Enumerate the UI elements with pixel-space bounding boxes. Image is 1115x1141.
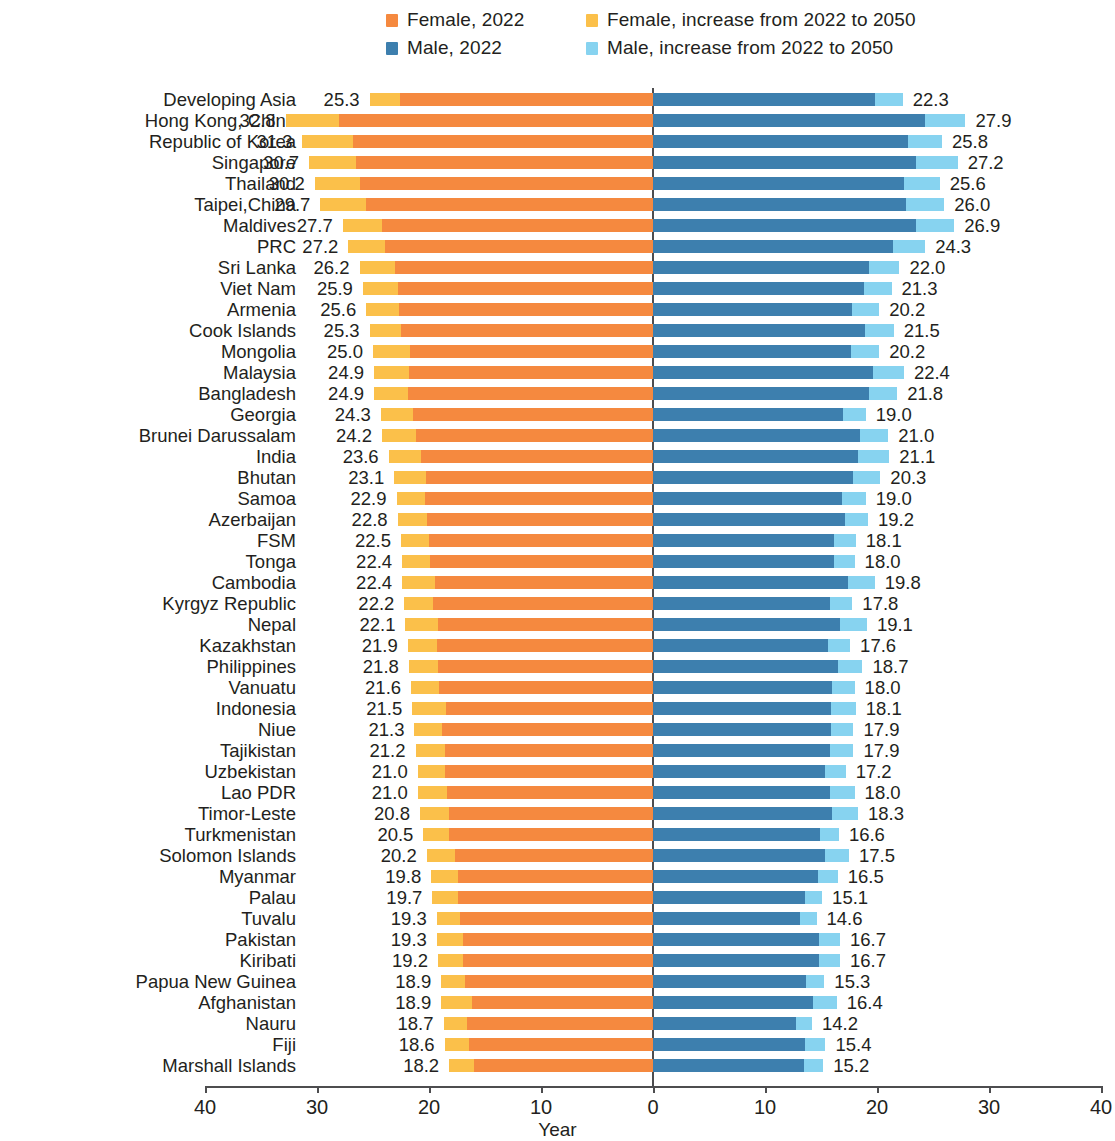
chart-row: Sri Lanka26.222.0	[0, 257, 1115, 278]
axis-tick	[765, 1086, 767, 1093]
female-2022-segment	[410, 345, 653, 358]
male-value-label: 22.0	[909, 257, 991, 278]
female-bar	[409, 660, 653, 673]
male-bar	[653, 450, 889, 463]
male-2022-segment	[653, 345, 851, 358]
female-bar	[320, 198, 653, 211]
female-2022-segment	[401, 324, 653, 337]
female-increase-segment	[381, 408, 413, 421]
male-2022-segment	[653, 450, 858, 463]
chart-row: Lao PDR21.018.0	[0, 782, 1115, 803]
female-increase-segment	[401, 534, 429, 547]
male-increase-segment	[869, 261, 899, 274]
male-increase-segment	[853, 471, 880, 484]
female-increase-segment	[411, 681, 439, 694]
female-2022-segment	[465, 975, 653, 988]
legend-label-female-increase: Female, increase from 2022 to 2050	[607, 9, 916, 31]
male-bar	[653, 219, 954, 232]
female-value-label: 24.3	[289, 404, 371, 425]
female-bar	[309, 156, 653, 169]
female-increase-segment	[431, 870, 458, 883]
female-2022-segment	[467, 1017, 653, 1030]
female-value-label: 19.2	[346, 950, 428, 971]
male-bar	[653, 135, 942, 148]
axis-tick-label: 30	[959, 1095, 1019, 1119]
female-increase-segment	[437, 933, 463, 946]
female-value-label: 20.5	[331, 824, 413, 845]
male-bar	[653, 93, 903, 106]
female-2022-segment	[442, 723, 653, 736]
legend-label-male-2022: Male, 2022	[407, 37, 502, 59]
male-increase-segment	[864, 282, 892, 295]
female-increase-segment	[404, 597, 433, 610]
male-bar	[653, 849, 849, 862]
male-bar	[653, 366, 904, 379]
female-increase-segment	[302, 135, 352, 148]
male-2022-segment	[653, 975, 806, 988]
category-label: Papua New Guinea	[136, 971, 296, 992]
legend-item-male-2022: Male, 2022	[386, 37, 586, 59]
male-2022-segment	[653, 723, 831, 736]
chart-row: Singapore30.727.2	[0, 152, 1115, 173]
chart-row: PRC27.224.3	[0, 236, 1115, 257]
male-2022-segment	[653, 828, 820, 841]
male-2022-segment	[653, 891, 805, 904]
axis-tick	[877, 1086, 879, 1093]
male-value-label: 26.0	[954, 194, 1036, 215]
chart-row: Mongolia25.020.2	[0, 341, 1115, 362]
female-increase-segment	[286, 114, 340, 127]
female-bar	[389, 450, 653, 463]
male-increase-segment	[819, 954, 840, 967]
female-increase-segment	[418, 786, 447, 799]
female-value-label: 21.0	[326, 782, 408, 803]
female-2022-segment	[400, 93, 653, 106]
female-2022-segment	[356, 156, 653, 169]
female-bar	[373, 345, 653, 358]
male-2022-segment	[653, 219, 916, 232]
female-2022-segment	[437, 639, 653, 652]
female-value-label: 24.9	[282, 362, 364, 383]
chart-legend: Female, 2022 Female, increase from 2022 …	[386, 6, 1086, 68]
female-increase-segment	[409, 660, 438, 673]
female-bar	[394, 471, 653, 484]
male-increase-segment	[818, 870, 838, 883]
female-2022-segment	[447, 786, 653, 799]
male-bar	[653, 996, 837, 1009]
male-value-label: 17.2	[856, 761, 938, 782]
legend-swatch-male-2022	[386, 42, 398, 55]
male-2022-segment	[653, 954, 819, 967]
axis-tick-label: 40	[175, 1095, 235, 1119]
male-value-label: 18.0	[865, 677, 947, 698]
male-value-label: 18.0	[865, 551, 947, 572]
male-bar	[653, 156, 958, 169]
male-increase-segment	[848, 576, 875, 589]
category-label: Developing Asia	[163, 89, 296, 110]
female-value-label: 22.2	[312, 593, 394, 614]
male-increase-segment	[831, 723, 853, 736]
plot-area: Developing Asia25.322.3Hong Kong, China3…	[0, 88, 1115, 1086]
female-increase-segment	[309, 156, 356, 169]
axis-tick	[429, 1086, 431, 1093]
male-increase-segment	[806, 975, 824, 988]
female-value-label: 25.0	[281, 341, 363, 362]
male-value-label: 16.6	[849, 824, 931, 845]
male-bar	[653, 723, 853, 736]
male-increase-segment	[873, 366, 904, 379]
male-increase-segment	[840, 618, 867, 631]
category-label: Georgia	[230, 404, 296, 425]
female-increase-segment	[373, 345, 410, 358]
male-value-label: 20.3	[890, 467, 972, 488]
female-value-label: 23.1	[302, 467, 384, 488]
male-2022-segment	[653, 744, 830, 757]
male-value-label: 16.5	[848, 866, 930, 887]
male-value-label: 21.0	[898, 425, 980, 446]
male-2022-segment	[653, 408, 843, 421]
male-value-label: 16.7	[850, 950, 932, 971]
male-value-label: 18.7	[872, 656, 954, 677]
female-bar	[402, 576, 653, 589]
female-value-label: 20.2	[335, 845, 417, 866]
chart-row: Maldives27.726.9	[0, 215, 1115, 236]
chart-row: Tonga22.418.0	[0, 551, 1115, 572]
life-expectancy-diverging-bar-chart: Female, 2022 Female, increase from 2022 …	[0, 0, 1115, 1141]
male-bar	[653, 639, 850, 652]
